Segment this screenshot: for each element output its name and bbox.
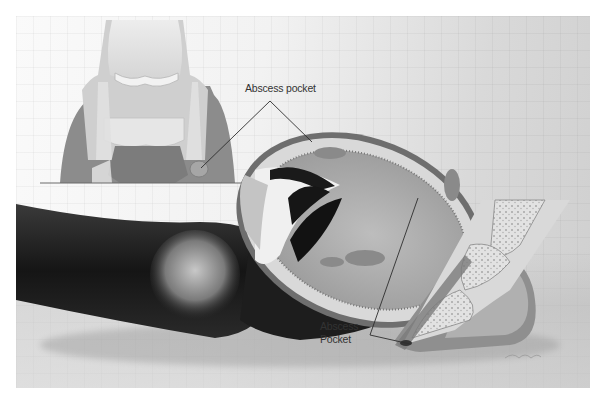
hoof-abscess-illustration (0, 0, 605, 403)
abscess-pocket-label-bottom-line1: Abscess (320, 320, 358, 333)
abscess-pocket-label-bottom-line2: Pocket (320, 333, 351, 346)
abscess-pocket-label-top: Abscess pocket (245, 82, 316, 95)
front-view-section (40, 20, 245, 183)
